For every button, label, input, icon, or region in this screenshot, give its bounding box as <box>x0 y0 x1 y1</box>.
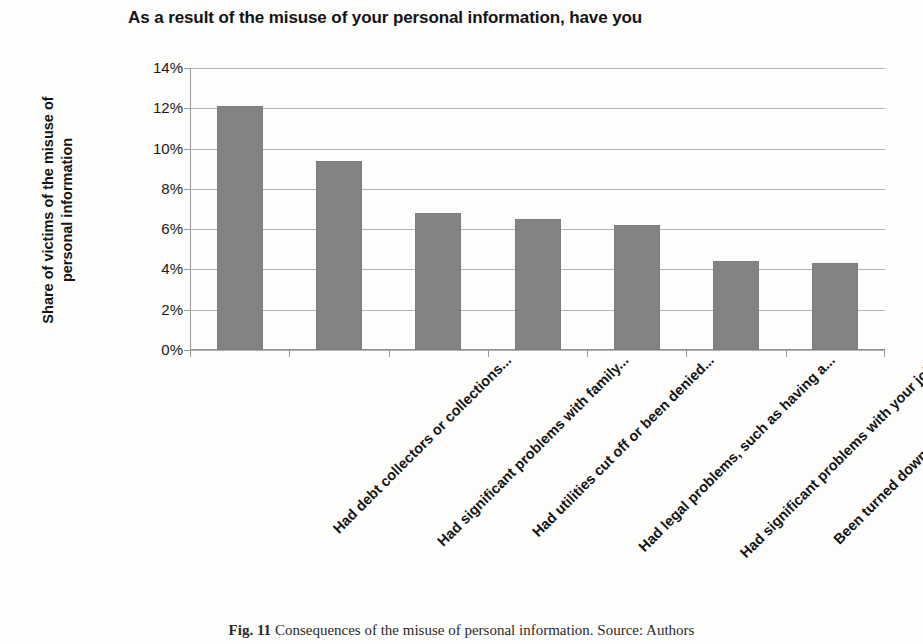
y-axis-title: Share of victims of the misuse of person… <box>20 60 96 360</box>
figure-caption-label: Fig. 11 <box>229 622 272 638</box>
y-tick-mark <box>184 108 190 109</box>
bar <box>415 213 461 350</box>
gridline <box>190 350 885 351</box>
bar <box>316 161 362 350</box>
x-tick-mark <box>289 350 290 357</box>
y-tick-label: 2% <box>127 301 183 318</box>
x-tick-mark <box>587 350 588 357</box>
bar <box>812 263 858 350</box>
y-tick-label: 14% <box>127 59 183 76</box>
bar <box>713 261 759 350</box>
bar <box>217 106 263 350</box>
y-axis-title-line1: Share of victims of the misuse of <box>40 96 56 323</box>
y-tick-label: 8% <box>127 180 183 197</box>
figure-caption-text: Consequences of the misuse of personal i… <box>275 622 695 638</box>
y-tick-label: 0% <box>127 341 183 358</box>
x-tick-mark <box>190 350 191 357</box>
bar <box>614 225 660 350</box>
x-tick-mark <box>389 350 390 357</box>
x-axis-category-label: Had legal problems, such as having a... <box>635 352 838 555</box>
chart-title: As a result of the misuse of your person… <box>128 8 808 28</box>
y-tick-mark <box>184 68 190 69</box>
y-tick-mark <box>184 269 190 270</box>
y-tick-mark <box>184 310 190 311</box>
figure-caption: Fig. 11 Consequences of the misuse of pe… <box>0 622 923 639</box>
x-tick-mark <box>786 350 787 357</box>
gridline <box>190 149 885 150</box>
y-tick-label: 6% <box>127 220 183 237</box>
gridline <box>190 189 885 190</box>
x-axis-category-label: Had significant problems with family... <box>434 352 631 549</box>
bar <box>515 219 561 350</box>
x-axis-category-label: Had significant problems with your job..… <box>737 352 923 561</box>
gridline <box>190 108 885 109</box>
x-tick-mark <box>488 350 489 357</box>
y-axis-title-line2: personal information <box>59 138 75 282</box>
x-tick-mark <box>686 350 687 357</box>
y-axis-title-text: Share of victims of the misuse of person… <box>39 60 77 360</box>
y-tick-label: 4% <box>127 260 183 277</box>
y-axis-line <box>190 68 191 350</box>
y-tick-mark <box>184 189 190 190</box>
x-tick-mark <box>884 350 885 357</box>
gridline <box>190 68 885 69</box>
plot-area: 14%12%10%8%6%4%2%0% <box>190 68 885 350</box>
y-tick-label: 12% <box>127 99 183 116</box>
y-tick-mark <box>184 229 190 230</box>
figure-panel: As a result of the misuse of your person… <box>0 0 923 644</box>
x-axis-category-label: Had debt collectors or collections... <box>329 352 514 537</box>
y-tick-label: 10% <box>127 140 183 157</box>
y-tick-mark <box>184 149 190 150</box>
